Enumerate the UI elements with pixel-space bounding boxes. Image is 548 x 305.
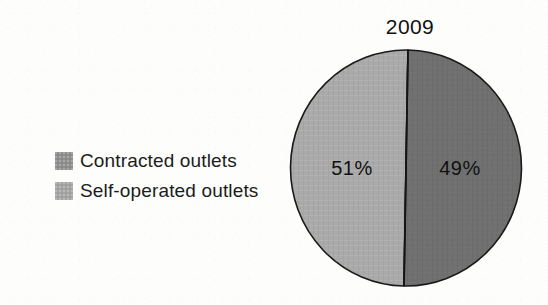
chart-legend: Contracted outlets Self-operated outlets — [55, 146, 258, 206]
legend-swatch-contracted-outlets — [55, 152, 73, 170]
legend-label-contracted-outlets: Contracted outlets — [80, 150, 237, 172]
legend-swatch-self-operated-outlets — [55, 182, 73, 200]
pie-graphic: 51% 49% — [291, 50, 522, 286]
chart-title: 2009 — [340, 14, 480, 40]
legend-item-contracted-outlets[interactable]: Contracted outlets — [55, 146, 258, 176]
pie-chart-figure: 2009 Contracted outlets Self-operated ou… — [0, 0, 548, 305]
legend-label-self-operated-outlets: Self-operated outlets — [80, 180, 258, 202]
legend-item-self-operated-outlets[interactable]: Self-operated outlets — [55, 176, 258, 206]
pie-value-label-self-operated-outlets: 51% — [331, 157, 373, 179]
pie-value-label-contracted-outlets: 49% — [439, 157, 481, 179]
